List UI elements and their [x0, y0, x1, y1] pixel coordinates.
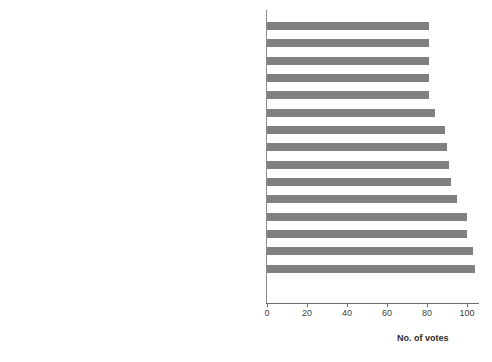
bar-row: Regs: Restrictions on foreign-owned comp…: [267, 105, 477, 122]
x-axis-title: No. of votes: [397, 333, 449, 343]
bar: [267, 22, 429, 30]
bar: [267, 161, 449, 169]
bar-chart: Regs: Section 77 of Companies Act - fina…: [0, 0, 492, 362]
bar: [267, 109, 435, 117]
bar: [267, 195, 457, 203]
bar: [267, 265, 475, 273]
bar-row: Tendency of promoters/vendors to hold on: [267, 122, 477, 139]
x-axis-line: [266, 303, 479, 304]
bar-row: Regs: Acqusition finance: [267, 261, 477, 278]
bar: [267, 91, 429, 99]
bar: [267, 126, 445, 134]
bar-row: Disconnect between ownership and managem…: [267, 53, 477, 70]
x-tick-label: 40: [342, 308, 352, 318]
bar-row: Evidence: More deals, more exits and suc…: [267, 87, 477, 104]
bar: [267, 74, 429, 82]
x-tick-mark: [307, 303, 308, 307]
bar-row: Mindset of lenders; lending against asse…: [267, 191, 477, 208]
bar-row: Exit paths - what options are available?: [267, 174, 477, 191]
x-tick-mark: [347, 303, 348, 307]
x-tick-mark: [267, 303, 268, 307]
bar-row: Make finance available: [267, 243, 477, 260]
bar: [267, 39, 429, 47]
bar: [267, 247, 473, 255]
bar-row: Available pool of professional entrepren…: [267, 70, 477, 87]
x-tick-label: 100: [459, 308, 474, 318]
x-tick-mark: [387, 303, 388, 307]
bar-row: Sweat capital from management: [267, 139, 477, 156]
x-tick-label: 60: [382, 308, 392, 318]
x-tick-label: 20: [302, 308, 312, 318]
bar-row: Regs: Insider trading: [267, 209, 477, 226]
bar: [267, 178, 451, 186]
x-tick-label: 0: [264, 308, 269, 318]
bar: [267, 213, 467, 221]
x-tick-mark: [427, 303, 428, 307]
plot-area: Regs: Section 77 of Companies Act - fina…: [267, 10, 477, 302]
bar-row: Regs: Section 77 of Companies Act - fina…: [267, 18, 477, 35]
bar: [267, 230, 467, 238]
x-tick-mark: [467, 303, 468, 307]
bar: [267, 57, 429, 65]
x-tick-label: 80: [422, 308, 432, 318]
bar-row: Regs: Take-over threshhold limits: [267, 157, 477, 174]
bar: [267, 143, 447, 151]
bar-row: Incentivizing professional management: [267, 226, 477, 243]
bar-row: Regs: Formation and winding up of specia…: [267, 35, 477, 52]
